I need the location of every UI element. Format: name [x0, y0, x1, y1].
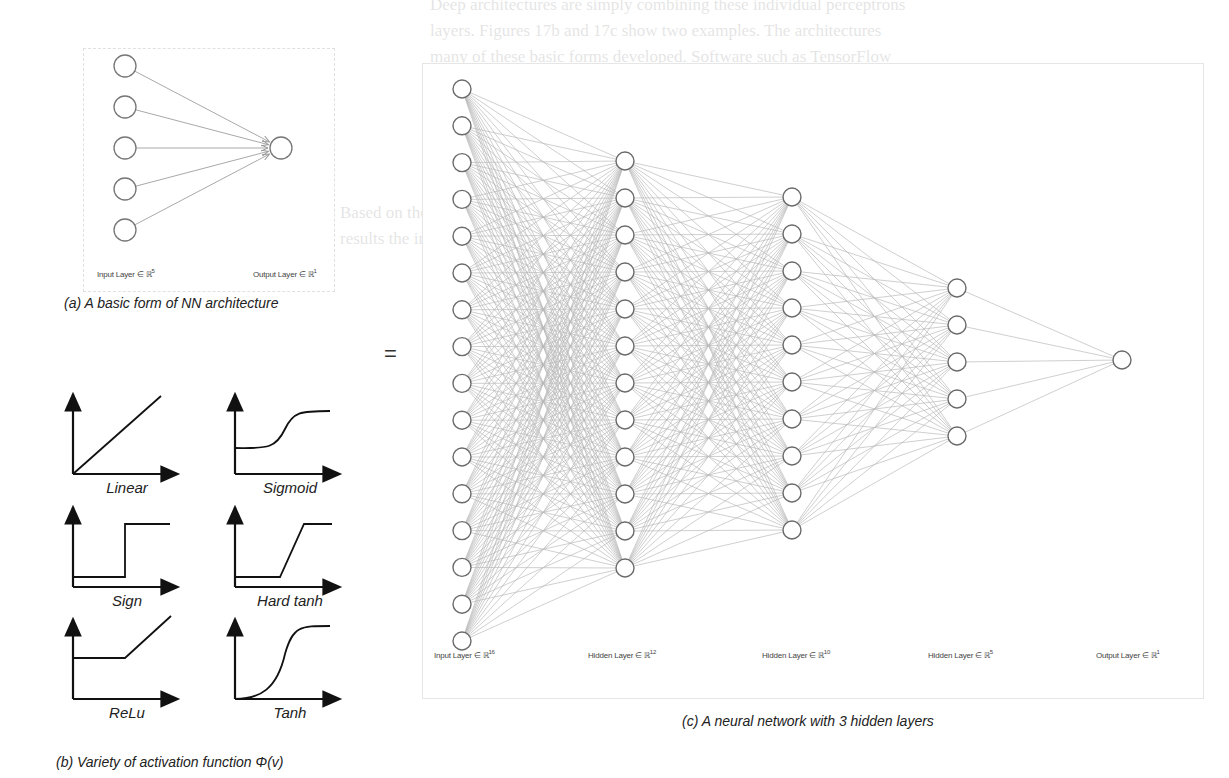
input-node: [453, 558, 471, 576]
edges-layer-1-to-2: [625, 161, 792, 568]
hidden-2-node: [783, 521, 801, 539]
edge: [625, 530, 792, 568]
edge: [957, 360, 1122, 436]
hidden-2-node: [783, 262, 801, 280]
input-node: [453, 522, 471, 540]
edge: [625, 234, 792, 568]
hidden-1-node: [616, 189, 634, 207]
hidden-1-node: [616, 522, 634, 540]
input-layer-label: Input Layer ∈ ℝ16: [434, 649, 495, 660]
hidden-1-node: [616, 300, 634, 318]
edge: [792, 288, 957, 530]
hidden-3-node: [948, 427, 966, 445]
edge: [462, 568, 625, 641]
input-node: [453, 632, 471, 650]
input-node: [453, 595, 471, 613]
label-dim: 16: [488, 649, 494, 655]
output-node: [1113, 351, 1131, 369]
edge: [792, 436, 957, 530]
input-node: [453, 411, 471, 429]
hidden-1-node: [616, 226, 634, 244]
edges-layer-2-to-3: [792, 197, 957, 530]
label-dim: 5: [990, 649, 993, 655]
hidden-2-node: [783, 299, 801, 317]
label-text: Hidden Layer ∈ ℝ: [928, 651, 990, 660]
input-node: [453, 338, 471, 356]
hidden-2-node: [783, 225, 801, 243]
label-text: Hidden Layer ∈ ℝ: [588, 651, 650, 660]
hidden-layer-3-label: Hidden Layer ∈ ℝ5: [928, 649, 993, 660]
edge: [957, 360, 1122, 399]
hidden-3-node: [948, 353, 966, 371]
input-node: [453, 227, 471, 245]
input-node: [453, 485, 471, 503]
edge: [625, 197, 792, 198]
hidden-1-node: [616, 152, 634, 170]
label-dim: 10: [824, 649, 830, 655]
edge: [625, 197, 792, 383]
hidden-2-node: [783, 373, 801, 391]
hidden-2-node: [783, 484, 801, 502]
edge: [792, 288, 957, 456]
edge: [462, 198, 625, 641]
caption-c: (c) A neural network with 3 hidden layer…: [682, 713, 934, 729]
edge: [792, 399, 957, 530]
hidden-1-node: [616, 337, 634, 355]
input-node: [453, 264, 471, 282]
hidden-layer-1-label: Hidden Layer ∈ ℝ12: [588, 649, 656, 660]
input-node: [453, 154, 471, 172]
input-node: [453, 301, 471, 319]
edges-layer-3-to-4: [957, 288, 1122, 436]
hidden-1-node: [616, 485, 634, 503]
edge: [957, 288, 1122, 360]
label-text: Input Layer ∈ ℝ: [434, 651, 488, 660]
edge: [792, 288, 957, 308]
edge: [957, 360, 1122, 362]
hidden-1-node: [616, 411, 634, 429]
label-text: Output Layer ∈ ℝ: [1096, 651, 1157, 660]
input-node: [453, 80, 471, 98]
label-text: Hidden Layer ∈ ℝ: [762, 651, 824, 660]
edges-layer-0-to-1: [462, 89, 625, 641]
input-node: [453, 117, 471, 135]
hidden-3-node: [948, 279, 966, 297]
hidden-1-node: [616, 263, 634, 281]
edge: [792, 362, 957, 530]
edge: [625, 308, 792, 568]
input-node: [453, 374, 471, 392]
hidden-2-node: [783, 410, 801, 428]
hidden-3-node: [948, 316, 966, 334]
hidden-2-node: [783, 188, 801, 206]
input-node: [453, 448, 471, 466]
hidden-3-node: [948, 390, 966, 408]
hidden-2-node: [783, 336, 801, 354]
hidden-1-node: [616, 374, 634, 392]
hidden-2-node: [783, 447, 801, 465]
edge: [957, 325, 1122, 360]
edge: [792, 288, 957, 382]
deep-nn-diagram: [0, 0, 1229, 778]
edge: [625, 161, 792, 197]
label-dim: 12: [650, 649, 656, 655]
hidden-layer-2-label: Hidden Layer ∈ ℝ10: [762, 649, 830, 660]
output-layer-label: Output Layer ∈ ℝ1: [1096, 649, 1160, 660]
input-node: [453, 190, 471, 208]
hidden-1-node: [616, 448, 634, 466]
label-dim: 1: [1157, 649, 1160, 655]
hidden-1-node: [616, 559, 634, 577]
